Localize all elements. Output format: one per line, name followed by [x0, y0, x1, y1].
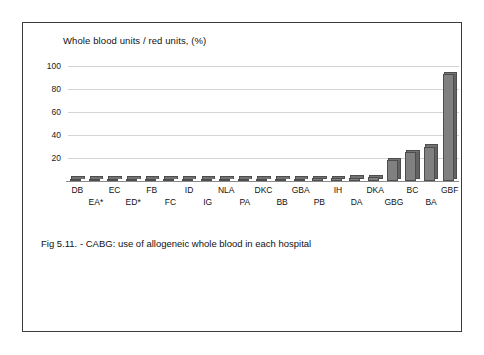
x-tick-label-DKA: DKA: [358, 185, 392, 195]
bar-face: [238, 179, 249, 181]
bar-face: [424, 147, 435, 182]
y-tick-label-20: 20: [52, 153, 61, 163]
y-tick-label-60: 60: [52, 107, 61, 117]
y-tick-label-100: 100: [47, 61, 61, 71]
x-tick-label-GBG: GBG: [377, 197, 411, 207]
bar-face: [182, 179, 193, 181]
bar-face: [145, 179, 156, 181]
x-tick-label-GBF: GBF: [433, 185, 467, 195]
bar-top-face: [183, 176, 197, 179]
bar-top-face: [90, 176, 104, 179]
bar-top-face: [295, 176, 309, 179]
bar-face: [349, 178, 360, 181]
x-tick-label-DA: DA: [340, 197, 374, 207]
x-tick-label-EC: EC: [98, 185, 132, 195]
y-tick-label-40: 40: [52, 130, 61, 140]
bar-top-face: [350, 175, 364, 178]
bar-face: [201, 179, 212, 181]
bar-face: [331, 178, 342, 181]
x-tick-label-BA: BA: [414, 197, 448, 207]
bar-top-face: [257, 176, 271, 179]
figure-page: Whole blood units / red units, (%) 10080…: [0, 0, 484, 355]
bar-face: [405, 152, 416, 181]
bar-face: [443, 74, 454, 181]
figure-frame: Whole blood units / red units, (%) 10080…: [22, 22, 462, 332]
x-tick-label-IH: IH: [321, 185, 355, 195]
bar-top-face: [127, 176, 141, 179]
x-tick-label-DB: DB: [60, 185, 94, 195]
bar-top-face: [108, 176, 122, 179]
x-tick-label-GBA: GBA: [284, 185, 318, 195]
plot-region: 10080604020: [68, 66, 459, 181]
bar-side-face: [454, 72, 458, 179]
bar-face: [219, 179, 230, 181]
x-tick-label-PB: PB: [302, 197, 336, 207]
chart-area: Whole blood units / red units, (%) 10080…: [23, 23, 463, 223]
bar-top-face: [164, 176, 178, 179]
x-tick-label-BC: BC: [395, 185, 429, 195]
figure-caption: Fig 5.11. - CABG: use of allogeneic whol…: [41, 238, 311, 249]
x-tick-label-FB: FB: [135, 185, 169, 195]
x-tick-label-PA: PA: [228, 197, 262, 207]
bar-face: [294, 179, 305, 181]
bar-face: [70, 179, 81, 181]
bar-top-face: [444, 72, 458, 75]
bar-side-face: [398, 158, 402, 179]
bar-series: [68, 66, 459, 181]
x-tick-label-ID: ID: [172, 185, 206, 195]
x-tick-label-EA*: EA*: [79, 197, 113, 207]
bar-face: [126, 179, 137, 181]
bar-face: [368, 177, 379, 181]
bar-face: [312, 178, 323, 181]
x-tick-label-ED*: ED*: [116, 197, 150, 207]
bar-face: [275, 179, 286, 181]
bar-top-face: [313, 176, 327, 179]
y-tick-label-80: 80: [52, 84, 61, 94]
y-axis-title: Whole blood units / red units, (%): [63, 35, 206, 46]
bar-top-face: [220, 176, 234, 179]
bar-side-face: [435, 144, 439, 179]
bar-face: [163, 179, 174, 181]
x-tick-label-FC: FC: [153, 197, 187, 207]
bar-face: [387, 160, 398, 181]
bar-top-face: [71, 176, 85, 179]
x-axis-labels: DBEA*ECED*FBFCIDIGNLAPADKCBBGBAPBIHDADKA…: [68, 183, 459, 215]
x-tick-label-BB: BB: [265, 197, 299, 207]
x-tick-label-NLA: NLA: [209, 185, 243, 195]
bar-side-face: [416, 150, 420, 179]
bar-top-face: [276, 176, 290, 179]
x-tick-label-IG: IG: [191, 197, 225, 207]
x-tick-label-DKC: DKC: [247, 185, 281, 195]
bar-top-face: [239, 176, 253, 179]
x-axis-line: [66, 181, 459, 182]
bar-top-face: [388, 158, 402, 161]
bar-face: [89, 179, 100, 181]
bar-top-face: [332, 176, 346, 179]
bar-top-face: [202, 176, 216, 179]
bar-top-face: [146, 176, 160, 179]
bar-face: [256, 179, 267, 181]
bar-face: [107, 179, 118, 181]
bar-top-face: [369, 175, 383, 178]
bar-top-face: [425, 144, 439, 147]
bar-top-face: [406, 150, 420, 153]
